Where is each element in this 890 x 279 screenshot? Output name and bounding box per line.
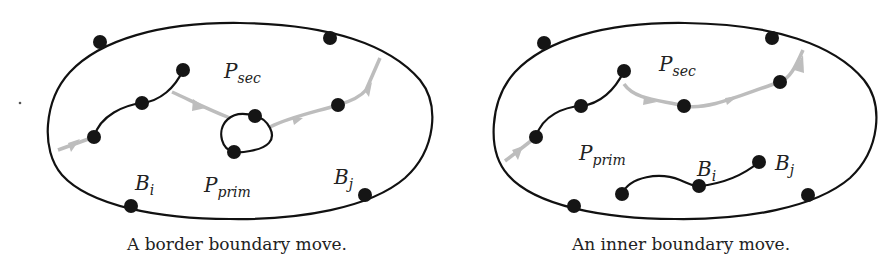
label-b-j: Bj [333,165,354,192]
path-node [529,130,543,144]
inner-node [752,155,766,169]
boundary-node [358,188,372,202]
loop-node [227,145,241,159]
figure-border-boundary-move: Psec Pprim Bi Bj A border boundary move. [48,23,433,254]
boundary-node [93,35,107,49]
loop-path [221,114,272,152]
boundary-node [124,199,138,213]
path-node [87,130,101,144]
arrow-head-icon [725,96,738,105]
boundary-node [765,31,779,45]
label-p-prim: Pprim [203,173,251,200]
inner-node [615,187,629,201]
path-node [574,99,588,113]
boundary-node [323,31,337,45]
boundary-node [801,188,815,202]
path-node [176,63,190,77]
boundary-node [537,36,551,50]
path-node [677,99,691,113]
path-node [617,64,631,78]
inner-boundary-path [622,162,759,194]
caption-border: A border boundary move. [126,234,347,254]
label-p-sec: Psec [223,59,261,86]
arrow-head-icon [292,117,303,125]
label-b-i: Bi [696,157,716,184]
path-node [331,98,345,112]
label-b-j: Bj [774,151,795,178]
path-node [773,75,787,89]
boundary-node [567,199,581,213]
label-p-prim: Pprim [578,141,626,168]
caption-inner: An inner boundary move. [571,234,790,254]
label-p-sec: Psec [658,52,696,79]
outer-boundary [494,23,877,219]
label-b-i: Bi [134,171,154,198]
figure-inner-boundary-move: Psec Pprim Bi Bj An inner boundary move. [494,23,877,254]
arrow-head-icon [68,139,80,152]
diagram-canvas: Psec Pprim Bi Bj A border boundary move. [0,0,890,279]
inner-node [692,179,706,193]
stray-dot [19,102,22,105]
gray-path-from-loop [270,58,380,127]
loop-node [248,109,262,123]
path-node [135,96,149,110]
